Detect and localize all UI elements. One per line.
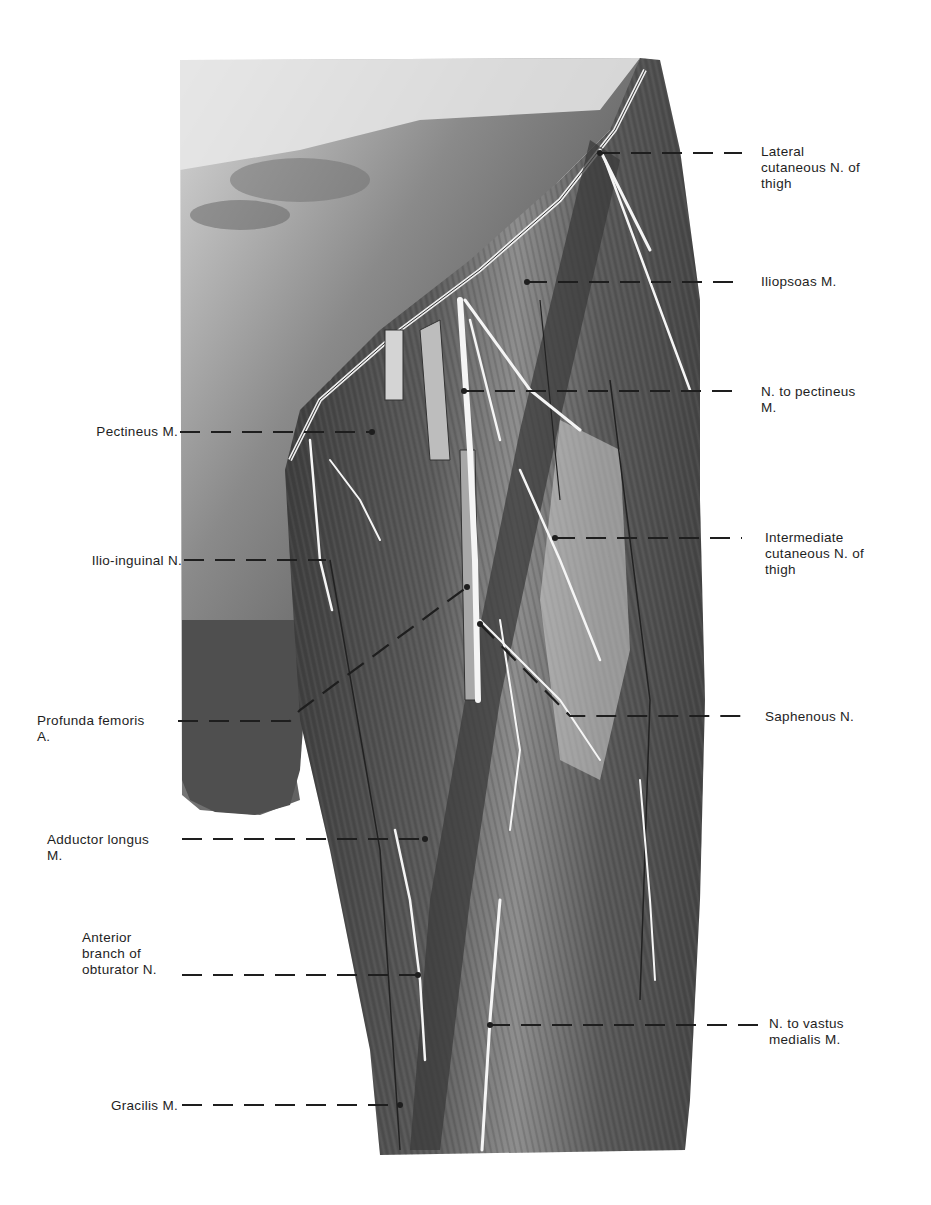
label-anterior-branch-of-obturator-n: Anterior branch of obturator N. [82, 930, 157, 978]
label-ilio-inguinal-n: Ilio-inguinal N. [92, 553, 182, 569]
label-adductor-longus-m: Adductor longus M. [47, 832, 149, 864]
label-saphenous-n: Saphenous N. [765, 709, 854, 725]
label-n-to-vastus-medialis-m: N. to vastus medialis M. [769, 1016, 844, 1048]
label-profunda-femoris-a: Profunda femoris A. [37, 713, 145, 745]
label-gracilis-m: Gracilis M. [111, 1098, 178, 1114]
label-lateral-cutaneous-n-of-thigh: Lateral cutaneous N. of thigh [761, 144, 860, 192]
label-n-to-pectineus-m: N. to pectineus M. [761, 384, 856, 416]
label-iliopsoas-m: Iliopsoas M. [761, 274, 837, 290]
label-pectineus-m: Pectineus M. [96, 424, 178, 440]
label-intermediate-cutaneous-n-of-thigh: Intermediate cutaneous N. of thigh [765, 530, 864, 578]
external-genitalia-region [182, 620, 305, 815]
